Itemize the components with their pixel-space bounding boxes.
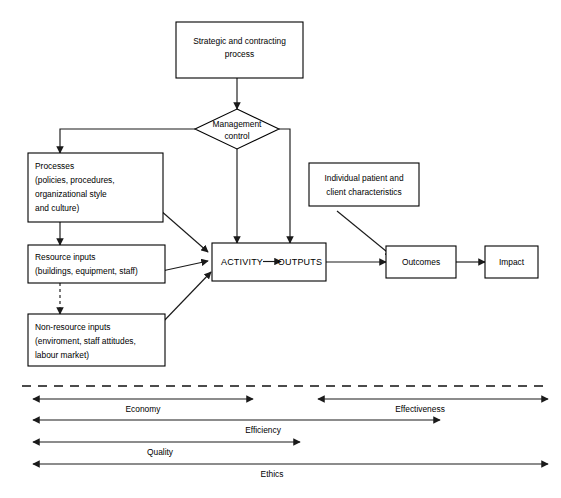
measures-layer: Economy Effectiveness Efficiency Quality… — [33, 399, 548, 479]
processes-line-3: organizational style — [35, 189, 107, 199]
management-control-line-2: control — [224, 131, 249, 141]
node-non-resource-inputs[interactable]: Non-resource inputs (enviroment, staff a… — [28, 314, 165, 366]
measure-quality-label: Quality — [147, 447, 174, 457]
node-management-control[interactable]: Management control — [195, 109, 279, 149]
node-processes[interactable]: Processes (policies, procedures, organiz… — [28, 153, 163, 222]
non-resource-inputs-line-2: (enviroment, staff attitudes, — [35, 336, 136, 346]
connector-management-right-to-activity — [279, 129, 290, 243]
non-resource-inputs-line-3: labour market) — [35, 350, 89, 360]
outcomes-label: Outcomes — [402, 257, 440, 267]
performance-framework-diagram: Strategic and contracting process Manage… — [0, 0, 561, 498]
impact-label: Impact — [499, 257, 525, 267]
node-resource-inputs[interactable]: Resource inputs (buildings, equipment, s… — [28, 245, 165, 283]
strategic-line-2: process — [225, 49, 254, 59]
management-control-line-1: Management — [213, 119, 263, 129]
node-impact[interactable]: Impact — [485, 246, 538, 278]
measure-effectiveness: Effectiveness — [318, 399, 548, 414]
measure-effectiveness-label: Effectiveness — [395, 404, 445, 414]
processes-line-2: (policies, procedures, — [35, 175, 115, 185]
connector-processes-to-activity — [160, 210, 208, 252]
non-resource-inputs-line-1: Non-resource inputs — [35, 322, 110, 332]
resource-inputs-line-2: (buildings, equipment, staff) — [35, 266, 138, 276]
connector-management-to-processes — [60, 129, 195, 153]
connector-resource-inputs-to-activity — [162, 261, 208, 271]
individual-patient-line-2: client characteristics — [326, 187, 401, 197]
outputs-label: OUTPUTS — [278, 257, 322, 267]
connector-patient-to-outcomes — [337, 211, 392, 256]
measure-ethics: Ethics — [33, 464, 548, 479]
processes-line-1: Processes — [35, 161, 74, 171]
individual-patient-line-1: Individual patient and — [324, 173, 403, 183]
measure-economy: Economy — [33, 399, 253, 414]
measure-efficiency: Efficiency — [33, 420, 440, 435]
processes-line-4: and culture) — [35, 203, 79, 213]
measure-efficiency-label: Efficiency — [245, 425, 282, 435]
node-outcomes[interactable]: Outcomes — [386, 246, 456, 278]
node-strategic-and-contracting-process[interactable]: Strategic and contracting process — [176, 22, 303, 78]
node-individual-patient-characteristics[interactable]: Individual patient and client characteri… — [309, 163, 419, 206]
connector-non-resource-to-activity — [160, 272, 211, 325]
activity-label: ACTIVITY — [221, 257, 263, 267]
measure-economy-label: Economy — [126, 404, 162, 414]
measure-ethics-label: Ethics — [261, 469, 284, 479]
node-activity-outputs[interactable]: ACTIVITY OUTPUTS — [212, 243, 326, 281]
diagram-canvas: Strategic and contracting process Manage… — [0, 0, 561, 498]
measure-quality: Quality — [33, 442, 300, 457]
resource-inputs-line-1: Resource inputs — [35, 252, 96, 262]
strategic-line-1: Strategic and contracting — [193, 36, 286, 46]
